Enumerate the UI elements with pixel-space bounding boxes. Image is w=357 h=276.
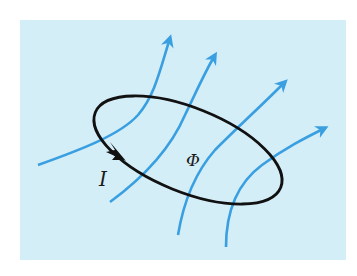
current-label: I	[98, 167, 108, 191]
background-panel	[20, 20, 346, 260]
diagram-canvas: I Φ	[0, 0, 357, 276]
flux-label: Φ	[186, 150, 200, 170]
